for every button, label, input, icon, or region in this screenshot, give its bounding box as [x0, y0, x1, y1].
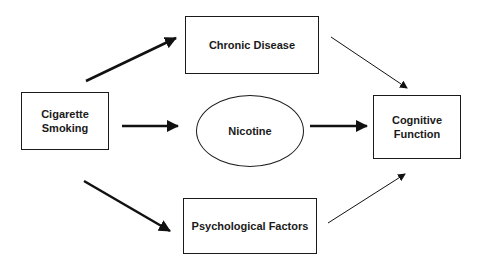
- node-psychological-factors: Psychological Factors: [183, 198, 317, 254]
- node-label: Psychological Factors: [192, 219, 309, 233]
- arrow-smoking-to-chronic: [86, 38, 176, 81]
- arrow-chronic-to-cognitive: [331, 37, 407, 88]
- arrow-smoking-to-psychological: [84, 181, 170, 231]
- node-cigarette-smoking: Cigarette Smoking: [21, 92, 109, 150]
- arrow-psychological-to-cognitive: [328, 174, 405, 223]
- node-label: Smoking: [42, 121, 88, 135]
- node-label: Nicotine: [228, 124, 271, 138]
- node-label: Cognitive: [392, 113, 442, 127]
- node-label: Function: [394, 127, 440, 141]
- node-label: Chronic Disease: [209, 38, 295, 52]
- node-chronic-disease: Chronic Disease: [185, 16, 319, 74]
- node-label: Cigarette: [41, 107, 89, 121]
- node-cognitive-function: Cognitive Function: [373, 95, 461, 159]
- node-nicotine: Nicotine: [196, 95, 304, 167]
